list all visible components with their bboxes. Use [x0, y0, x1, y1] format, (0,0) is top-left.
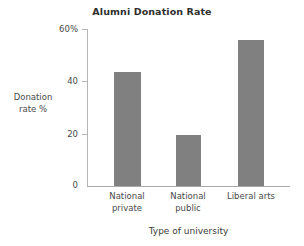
x-category-line-2: public — [151, 203, 225, 215]
bar-liberal-arts — [238, 40, 264, 187]
y-axis-title: Donation rate % — [2, 92, 64, 115]
y-axis-title-line-2: rate % — [2, 104, 64, 116]
y-axis-line — [87, 29, 88, 187]
chart-title: Alumni Donation Rate — [0, 6, 304, 17]
bar-chart: Alumni Donation Rate 60% 40 20 0 Nationa… — [0, 0, 304, 246]
bar-national-public — [176, 135, 201, 186]
x-category-label-liberal-arts: Liberal arts — [214, 191, 288, 203]
y-tick-20 — [82, 134, 87, 135]
y-tick-40 — [82, 81, 87, 82]
x-axis-title: Type of university — [87, 226, 290, 236]
y-tick-60 — [82, 29, 87, 30]
y-tick-label-40: 40 — [18, 77, 78, 86]
x-axis-line — [87, 186, 290, 187]
bar-national-private — [114, 72, 141, 186]
y-tick-label-20: 20 — [18, 130, 78, 139]
y-tick-label-60: 60% — [18, 25, 78, 34]
x-category-line-1: Liberal arts — [214, 191, 288, 203]
y-tick-label-0: 0 — [18, 181, 78, 190]
y-axis-title-line-1: Donation — [2, 92, 64, 104]
